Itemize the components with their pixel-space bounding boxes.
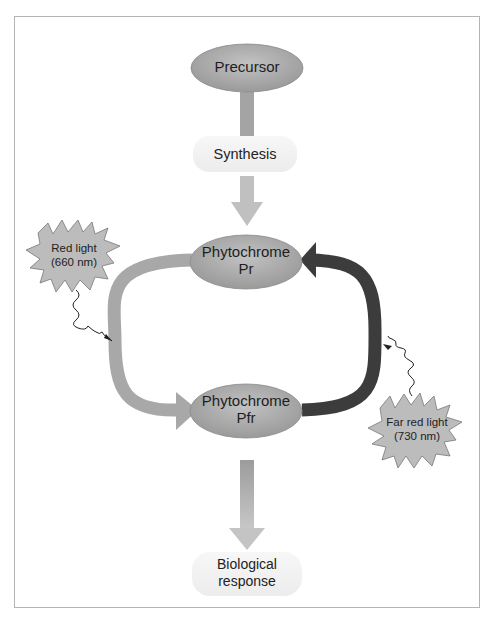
far-red-light-wave-icon — [388, 336, 414, 396]
response-arrow-shaft — [240, 460, 254, 530]
pr-label-line1: Phytochrome — [188, 244, 304, 261]
red-light-line2: (660 nm) — [34, 256, 114, 270]
pfr-label: Phytochrome Pfr — [188, 393, 304, 427]
pr-label: Phytochrome Pr — [188, 244, 304, 278]
red-light-label: Red light (660 nm) — [34, 242, 114, 270]
far-red-light-label: Far red light (730 nm) — [376, 416, 458, 444]
pfr-label-line1: Phytochrome — [188, 393, 304, 410]
response-label-line2: response — [192, 573, 302, 590]
far-red-conversion-arrow — [302, 260, 375, 410]
response-label-line1: Biological — [192, 556, 302, 573]
phytochrome-diagram — [0, 0, 496, 622]
red-light-wave-icon — [73, 290, 112, 341]
synthesis-arrow-head — [231, 202, 263, 226]
red-light-line1: Red light — [34, 242, 114, 256]
synthesis-label: Synthesis — [193, 146, 297, 162]
pfr-label-line2: Pfr — [188, 410, 304, 427]
biological-response-label: Biological response — [192, 556, 302, 589]
red-light-conversion-arrow — [114, 260, 192, 410]
precursor-label: Precursor — [191, 59, 303, 76]
far-red-light-line2: (730 nm) — [376, 430, 458, 444]
pr-label-line2: Pr — [188, 261, 304, 278]
far-red-light-wave-arrowhead — [383, 344, 392, 350]
synthesis-arrow-shaft — [240, 176, 254, 204]
precursor-connector — [240, 92, 254, 136]
far-red-light-line1: Far red light — [376, 416, 458, 430]
response-arrow-head — [229, 528, 265, 550]
